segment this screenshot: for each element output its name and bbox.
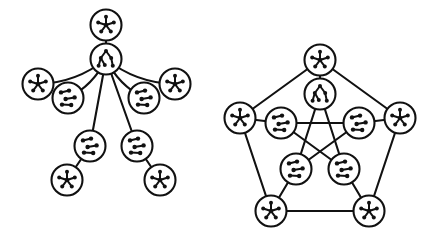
icon-dot bbox=[246, 114, 250, 118]
icon-dot bbox=[277, 207, 281, 211]
icon-dot bbox=[69, 103, 73, 107]
node-circle bbox=[91, 44, 122, 75]
icon-dot bbox=[104, 15, 108, 19]
icon-dot bbox=[60, 102, 64, 106]
icon-dot bbox=[165, 80, 169, 84]
icon-dot bbox=[65, 178, 70, 183]
icon-dot bbox=[41, 89, 45, 93]
icon-dot bbox=[345, 174, 349, 178]
icon-dot bbox=[274, 216, 278, 220]
icon-dot bbox=[139, 97, 143, 101]
icon-dot bbox=[148, 95, 152, 99]
icon-dot bbox=[317, 98, 321, 102]
icon-dot bbox=[230, 114, 234, 118]
graph-node[interactable] bbox=[344, 108, 375, 139]
icon-dot bbox=[313, 65, 317, 69]
graph-node[interactable] bbox=[281, 154, 312, 185]
icon-dot bbox=[335, 161, 339, 165]
icon-dot bbox=[287, 161, 291, 165]
icon-dot bbox=[367, 201, 371, 205]
icon-dot bbox=[129, 150, 133, 154]
icon-dot bbox=[91, 151, 95, 155]
icon-dot bbox=[372, 216, 376, 220]
icon-dot bbox=[104, 23, 109, 28]
icon-dot bbox=[138, 151, 142, 155]
icon-dot bbox=[44, 80, 48, 84]
icon-dot bbox=[326, 56, 330, 60]
graph-node[interactable] bbox=[266, 108, 297, 139]
icon-dot bbox=[89, 136, 93, 140]
icon-dot bbox=[158, 178, 163, 183]
graph-node[interactable] bbox=[91, 10, 122, 41]
icon-dot bbox=[264, 216, 268, 220]
icon-dot bbox=[318, 58, 323, 63]
icon-dot bbox=[406, 114, 410, 118]
icon-dot bbox=[85, 145, 89, 149]
graph-node[interactable] bbox=[225, 103, 256, 134]
graph-node[interactable] bbox=[145, 165, 176, 196]
icon-dot bbox=[288, 173, 292, 177]
graph-node[interactable] bbox=[354, 196, 385, 227]
graph-node[interactable] bbox=[305, 79, 336, 110]
icon-dot bbox=[36, 82, 41, 87]
icon-dot bbox=[291, 168, 295, 172]
icon-dot bbox=[173, 82, 178, 87]
graph-node[interactable] bbox=[160, 69, 191, 100]
figure-canvas bbox=[0, 0, 428, 236]
icon-dot bbox=[310, 56, 314, 60]
icon-dot bbox=[153, 185, 157, 189]
icon-dot bbox=[109, 30, 113, 34]
icon-dot bbox=[261, 207, 265, 211]
icon-dot bbox=[128, 138, 132, 142]
icon-dot bbox=[158, 170, 162, 174]
graph-node[interactable] bbox=[256, 196, 287, 227]
graph-node[interactable] bbox=[91, 44, 122, 75]
icon-dot bbox=[311, 99, 315, 103]
icon-dot bbox=[163, 185, 167, 189]
icon-dot bbox=[343, 159, 347, 163]
icon-dot bbox=[398, 116, 403, 121]
icon-dot bbox=[136, 102, 140, 106]
icon-dot bbox=[354, 122, 358, 126]
icon-dot bbox=[348, 166, 352, 170]
icon-dot bbox=[297, 174, 301, 178]
icon-dot bbox=[285, 120, 289, 124]
icon-dot bbox=[238, 116, 243, 121]
icon-dot bbox=[273, 127, 277, 131]
graph-node[interactable] bbox=[129, 83, 160, 114]
graph-node[interactable] bbox=[385, 103, 416, 134]
icon-dot bbox=[398, 108, 402, 112]
icon-dot bbox=[173, 74, 177, 78]
icon-dot bbox=[295, 159, 299, 163]
graph-node[interactable] bbox=[75, 131, 106, 162]
icon-dot bbox=[73, 176, 77, 180]
icon-dot bbox=[313, 91, 317, 95]
icon-dot bbox=[82, 150, 86, 154]
icon-dot bbox=[323, 91, 327, 95]
icon-dot bbox=[269, 209, 274, 214]
icon-dot bbox=[282, 128, 286, 132]
icon-dot bbox=[166, 176, 170, 180]
icon-dot bbox=[104, 49, 108, 53]
icon-dot bbox=[272, 115, 276, 119]
petersen-graph-of-graphs bbox=[225, 45, 416, 227]
icon-dot bbox=[65, 170, 69, 174]
icon-dot bbox=[132, 145, 136, 149]
graph-node[interactable] bbox=[23, 69, 54, 100]
icon-dot bbox=[269, 201, 273, 205]
icon-dot bbox=[143, 88, 147, 92]
node-circle bbox=[305, 79, 336, 110]
icon-dot bbox=[390, 114, 394, 118]
graph-node[interactable] bbox=[52, 165, 83, 196]
icon-dot bbox=[81, 138, 85, 142]
icon-dot bbox=[57, 176, 61, 180]
graph-node[interactable] bbox=[122, 131, 153, 162]
icon-dot bbox=[28, 80, 32, 84]
graph-node[interactable] bbox=[53, 83, 84, 114]
icon-dot bbox=[350, 115, 354, 119]
icon-dot bbox=[63, 97, 67, 101]
graph-node[interactable] bbox=[329, 154, 360, 185]
icon-dot bbox=[363, 120, 367, 124]
graph-node[interactable] bbox=[305, 45, 336, 76]
icon-dot bbox=[135, 90, 139, 94]
